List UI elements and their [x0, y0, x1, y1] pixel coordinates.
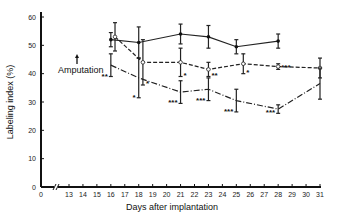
x-tick-label: 26	[246, 191, 254, 198]
arrow-up-icon	[75, 54, 79, 58]
y-tick-label: 30	[28, 99, 36, 106]
y-tick-label: 60	[28, 14, 36, 21]
line-chart: 0102030405060013141516171819202122232425…	[0, 0, 340, 220]
data-point	[113, 35, 117, 39]
x-tick-label: 24	[218, 191, 226, 198]
amputation-annotation: Amputation	[58, 65, 104, 75]
data-point	[276, 39, 280, 43]
data-point	[207, 35, 211, 39]
significance-marker: ***	[168, 98, 178, 107]
data-point	[207, 68, 211, 72]
significance-marker: *	[133, 93, 137, 102]
series-line	[111, 34, 278, 47]
significance-marker: ***	[281, 63, 291, 72]
data-point	[141, 61, 145, 65]
y-tick-label: 0	[32, 184, 36, 191]
x-tick-label: 18	[135, 191, 143, 198]
x-tick-label: 29	[288, 191, 296, 198]
data-point	[276, 65, 280, 69]
x-tick-label: 30	[302, 191, 310, 198]
x-tick-label: 27	[260, 191, 268, 198]
y-tick-label: 20	[28, 127, 36, 134]
significance-marker: **	[211, 71, 218, 80]
x-tick-label: 19	[149, 191, 157, 198]
y-axis-title: Labeling index (%)	[5, 65, 15, 140]
x-tick-label: 22	[191, 191, 199, 198]
significance-marker: ***	[266, 108, 276, 117]
data-point	[179, 32, 183, 36]
x-tick-label: 13	[65, 191, 73, 198]
x-tick-label: 25	[232, 191, 240, 198]
x-tick-label: 14	[79, 191, 87, 198]
data-point	[109, 38, 113, 42]
x-tick-label: 20	[163, 191, 171, 198]
series-layer: ***********************	[102, 23, 322, 118]
x-tick-label: 21	[177, 191, 185, 198]
x-tick-label: 31	[316, 191, 324, 198]
x-tick-label: 28	[274, 191, 282, 198]
data-point	[137, 41, 141, 45]
x-tick-label: 15	[93, 191, 101, 198]
data-point	[242, 62, 246, 66]
data-point	[179, 61, 183, 65]
data-point	[235, 45, 239, 49]
significance-marker: *	[246, 68, 250, 77]
significance-marker: ***	[196, 96, 206, 105]
significance-marker: *	[184, 71, 188, 80]
significance-marker: ***	[224, 107, 234, 116]
x-tick-label: 16	[107, 191, 115, 198]
x-tick-label: 23	[205, 191, 213, 198]
y-tick-label: 10	[28, 155, 36, 162]
x-axis-title: Days after implantation	[126, 202, 218, 212]
x-tick-label: 17	[121, 191, 129, 198]
series-control	[109, 24, 280, 58]
series-treatment-dashed: ********	[113, 23, 322, 88]
y-tick-label: 40	[28, 70, 36, 77]
x-tick-label: 0	[39, 191, 43, 198]
y-tick-label: 50	[28, 42, 36, 49]
labels: Labeling index (%) Days after implantati…	[5, 65, 218, 212]
